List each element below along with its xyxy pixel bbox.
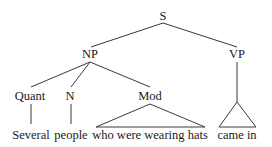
leaf-came-in: came in [217, 128, 257, 142]
edge-np-quant [31, 62, 90, 87]
syntax-tree: S NP VP Quant N Mod Several people who w… [0, 0, 272, 147]
node-s: S [160, 9, 167, 23]
edge-s-np [91, 23, 163, 47]
node-mod: Mod [138, 89, 162, 103]
edge-s-vp [163, 23, 237, 47]
mod-triangle [96, 104, 205, 127]
node-n: N [65, 89, 74, 103]
leaf-people: people [54, 128, 88, 142]
node-np: NP [82, 47, 98, 61]
edge-np-mod [90, 62, 150, 87]
vp-triangle [219, 102, 256, 127]
leaf-several: Several [12, 128, 50, 142]
leaf-mod-phrase: who were wearing hats [92, 128, 208, 142]
node-quant: Quant [15, 89, 46, 103]
node-vp: VP [229, 47, 245, 61]
